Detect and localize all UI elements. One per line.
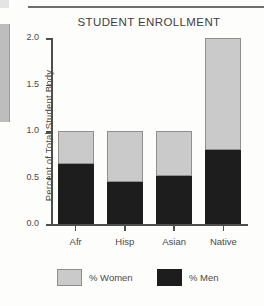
bar-segment-women[interactable] (107, 131, 143, 181)
bar-stack[interactable] (107, 131, 143, 224)
legend-item[interactable]: % Men (157, 269, 219, 286)
bar-segment-women[interactable] (205, 38, 241, 150)
y-tick-label: 0.5 (26, 172, 39, 182)
legend-item[interactable]: % Women (57, 269, 133, 286)
y-axis-line (51, 38, 53, 226)
x-tick (75, 226, 77, 231)
bar-segment-women[interactable] (58, 131, 94, 164)
bar-stack[interactable] (205, 38, 241, 224)
y-tick: 1.5 (46, 85, 51, 87)
x-tick (173, 226, 175, 231)
x-tick-label: Hisp (115, 236, 134, 247)
chart-legend: % Women% Men (0, 266, 264, 296)
page-top-rule (28, 6, 264, 8)
x-tick (124, 226, 126, 231)
y-tick: 0.5 (46, 178, 51, 180)
x-axis-line (51, 224, 248, 226)
chart-title: STUDENT ENROLLMENT (44, 16, 254, 28)
bar-stack[interactable] (156, 131, 192, 224)
legend-swatch-men-icon (157, 269, 182, 286)
y-tick: 0.0 (46, 224, 51, 226)
bar-segment-men[interactable] (156, 176, 192, 224)
legend-label: % Men (189, 272, 219, 283)
legend-swatch-women-icon (57, 269, 82, 286)
chart-page: STUDENT ENROLLMENT Percent of Total Stud… (0, 0, 264, 306)
bar-segment-men[interactable] (58, 164, 94, 225)
plot-area: 0.00.51.01.52.0 AfrHispAsianNative (51, 38, 248, 226)
y-tick-label: 1.0 (26, 125, 39, 135)
x-tick (223, 226, 225, 231)
bar-segment-women[interactable] (156, 131, 192, 176)
y-tick-label: 0.0 (26, 218, 39, 228)
bar-segment-men[interactable] (205, 150, 241, 225)
bar-stack[interactable] (58, 131, 94, 224)
y-tick-label: 1.5 (26, 79, 39, 89)
x-tick-label: Afr (70, 236, 82, 247)
x-tick-label: Native (210, 236, 237, 247)
x-tick-label: Asian (162, 236, 186, 247)
y-tick: 1.0 (46, 131, 51, 133)
scan-corner-artifact (0, 0, 9, 8)
legend-label: % Women (89, 272, 133, 283)
y-tick-label: 2.0 (26, 32, 39, 42)
bar-segment-men[interactable] (107, 182, 143, 225)
scan-edge-artifact (0, 24, 10, 122)
y-tick: 2.0 (46, 38, 51, 40)
